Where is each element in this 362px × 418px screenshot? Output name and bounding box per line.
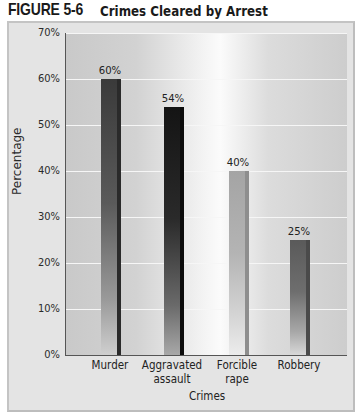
y-tick-label: 10% — [26, 302, 60, 315]
bar-forcible-rape — [229, 171, 249, 355]
x-tick-label-line: Robbery — [263, 358, 335, 372]
value-label: 54% — [155, 92, 192, 105]
bar-shadow — [117, 79, 121, 355]
x-tick-label: Robbery — [263, 358, 335, 372]
x-tick-label: Aggravatedassault — [136, 358, 208, 386]
x-tick-label-line: rape — [201, 372, 273, 386]
value-label: 25% — [281, 225, 318, 238]
y-tick-label: 70% — [26, 26, 60, 39]
figure-title: Crimes Cleared by Arrest — [100, 3, 268, 19]
bar-murder — [101, 79, 121, 355]
y-tick-label: 60% — [26, 72, 60, 85]
x-tick-label-line: assault — [136, 372, 208, 386]
y-tick-label: 50% — [26, 118, 60, 131]
y-tick-label: 20% — [26, 256, 60, 269]
bar-robbery — [290, 240, 310, 355]
bar-shadow — [180, 107, 184, 355]
figure-number: FIGURE 5-6 — [8, 0, 83, 20]
bar-shadow — [306, 240, 310, 355]
bar-shadow — [245, 171, 249, 355]
bar-aggravated-assault — [164, 107, 184, 355]
value-label: 40% — [220, 156, 257, 169]
y-tick-label: 40% — [26, 164, 60, 177]
figure-heading: FIGURE 5-6 Crimes Cleared by Arrest — [8, 0, 100, 22]
plot-area — [65, 33, 347, 356]
y-tick-label: 0% — [26, 348, 60, 361]
x-axis-title: Crimes — [189, 389, 225, 403]
x-tick-label-line: Aggravated — [136, 358, 208, 372]
gridline — [66, 33, 347, 34]
y-axis-label: Percentage — [10, 127, 24, 195]
y-tick-label: 30% — [26, 210, 60, 223]
value-label: 60% — [92, 64, 129, 77]
